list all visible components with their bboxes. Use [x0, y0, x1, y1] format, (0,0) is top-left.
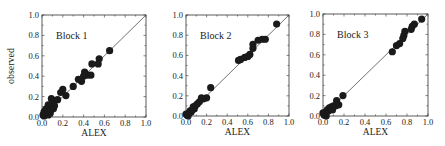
data-point [47, 109, 54, 116]
x-tick-label: 0.6 [242, 117, 253, 127]
panel-title: Block 3 [337, 29, 368, 40]
data-point [273, 20, 280, 27]
x-axis-label: ALEX [363, 127, 388, 137]
x-tick-label: 0.6 [99, 118, 110, 128]
y-tick-label: 0.6 [28, 51, 39, 61]
x-tick-label: 0.2 [339, 117, 350, 127]
panel-title: Block 1 [56, 30, 87, 41]
y-tick-label: 1.0 [172, 10, 183, 20]
scatter-panel-3: 0.00.20.40.60.81.00.00.20.40.60.81.0ALEX… [309, 9, 433, 137]
x-tick-label: 1.0 [284, 117, 295, 127]
y-tick-label: 0.6 [172, 50, 183, 60]
data-point [51, 102, 58, 109]
x-tick-label: 1.0 [423, 117, 434, 127]
data-point [40, 108, 47, 115]
x-tick-label: 0.6 [381, 117, 392, 127]
data-point [389, 48, 396, 55]
y-tick-label: 1.0 [309, 9, 320, 19]
y-tick-label: 0.4 [172, 71, 183, 81]
y-tick-label: 0.4 [28, 71, 39, 81]
y-tick-label: 0.8 [172, 30, 183, 40]
data-point [329, 106, 336, 113]
data-point [106, 47, 113, 54]
data-point [235, 57, 242, 64]
y-tick-label: 0.2 [28, 92, 39, 102]
x-tick-label: 0.2 [57, 118, 68, 128]
x-tick-label: 0.4 [222, 117, 233, 127]
y-tick-label: 0.0 [28, 112, 39, 122]
data-point [62, 92, 69, 99]
y-tick-label: 0.8 [309, 29, 320, 39]
y-tick-label: 0.0 [172, 111, 183, 121]
x-tick-label: 0.4 [78, 118, 89, 128]
data-point [319, 109, 326, 116]
x-tick-label: 0.8 [120, 118, 131, 128]
y-tick-label: 0.0 [309, 111, 320, 121]
data-point [88, 60, 95, 67]
y-tick-label: 0.2 [309, 91, 320, 101]
x-tick-label: 1.0 [141, 118, 152, 128]
data-point [408, 26, 415, 33]
y-tick-label: 0.6 [309, 50, 320, 60]
data-point [95, 60, 102, 67]
data-point [182, 110, 189, 117]
scatter-panel-1: 0.00.20.40.60.81.00.00.20.40.60.81.0ALEX… [28, 10, 151, 138]
y-tick-label: 1.0 [28, 10, 39, 20]
data-point [207, 84, 214, 91]
data-point [70, 83, 77, 90]
y-tick-label: 0.2 [172, 91, 183, 101]
y-tick-label: 0.8 [28, 30, 39, 40]
data-point [339, 92, 346, 99]
x-tick-label: 0.2 [201, 117, 212, 127]
x-tick-label: 0.8 [402, 117, 413, 127]
y-axis-label: observed [5, 48, 16, 84]
data-point [393, 42, 400, 49]
scatter-panel-2: 0.00.20.40.60.81.00.00.20.40.60.81.0ALEX… [172, 10, 294, 137]
scatter-figure: observed 0.00.20.40.60.81.00.00.20.40.60… [0, 0, 445, 146]
data-point [418, 16, 425, 23]
x-tick-label: 0.8 [263, 117, 274, 127]
data-point [75, 76, 82, 83]
panel-title: Block 2 [200, 30, 231, 41]
x-axis-label: ALEX [81, 128, 106, 138]
x-tick-label: 0.4 [360, 117, 371, 127]
x-axis-label: ALEX [225, 127, 250, 137]
y-tick-label: 0.4 [309, 70, 320, 80]
